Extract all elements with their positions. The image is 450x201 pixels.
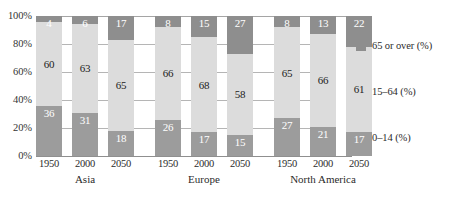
bar-value-15-64: 63	[80, 62, 91, 74]
bar-value-15-64: 65	[282, 67, 293, 79]
x-tick-asia-2050: 2050	[104, 158, 138, 170]
legend-item-15-64[interactable]: 15–64 (%)	[356, 86, 450, 98]
bar-value-65-over: 17	[116, 16, 127, 29]
bar-segment-0-14: 17	[191, 132, 217, 156]
x-tick-europe-2000: 2000	[187, 158, 221, 170]
bar-europe-1950[interactable]: 8 66 26	[155, 16, 181, 156]
x-tick-asia-1950: 1950	[32, 158, 66, 170]
bar-value-15-64: 58	[235, 88, 246, 100]
bar-segment-15-64: 65	[274, 27, 300, 118]
bar-value-0-14: 17	[199, 132, 210, 145]
y-tick-label-100: 100%	[8, 10, 32, 21]
bar-value-0-14: 36	[44, 106, 55, 119]
y-tick-label-80: 80%	[13, 38, 32, 49]
bar-value-15-64: 60	[44, 58, 55, 70]
bar-north-america-1950[interactable]: 8 65 27	[274, 16, 300, 156]
bar-segment-0-14: 26	[155, 120, 181, 156]
bar-value-15-64: 66	[318, 74, 329, 86]
x-tick-north-america-2000: 2000	[306, 158, 340, 170]
bar-segment-15-64: 58	[227, 54, 253, 135]
bar-segment-0-14: 36	[36, 106, 62, 156]
x-axis: 1950 2000 2050 1950 2000 2050 1950 2000 …	[36, 158, 352, 200]
bar-value-15-64: 65	[116, 79, 127, 91]
bar-segment-0-14: 18	[108, 131, 134, 156]
x-tick-europe-2050: 2050	[223, 158, 257, 170]
bar-segment-65-over: 17	[108, 16, 134, 40]
legend-label-65-over: 65 or over (%)	[372, 40, 432, 52]
legend: 65 or over (%) 15–64 (%) 0–14 (%)	[356, 40, 450, 178]
bar-asia-1950[interactable]: 4 60 36	[36, 16, 62, 156]
bar-segment-15-64: 63	[72, 24, 98, 112]
y-tick-label-0: 0%	[18, 150, 32, 161]
bar-value-65-over: 22	[354, 16, 365, 29]
y-tick-label-40: 40%	[13, 94, 32, 105]
y-tick-label-60: 60%	[13, 66, 32, 77]
bar-segment-65-over: 15	[191, 16, 217, 37]
legend-label-15-64: 15–64 (%)	[372, 86, 416, 98]
plot-area: 4 60 36 6 63 31 17	[36, 16, 334, 156]
gridline-0	[36, 156, 352, 157]
bar-segment-65-over: 13	[310, 16, 336, 34]
bar-segment-65-over: 4	[36, 16, 62, 22]
bar-segment-15-64: 68	[191, 37, 217, 132]
bar-north-america-2000[interactable]: 13 66 21	[310, 16, 336, 156]
y-tick-label-20: 20%	[13, 122, 32, 133]
bar-value-0-14: 17	[354, 132, 365, 145]
bar-value-0-14: 31	[80, 113, 91, 126]
x-tick-asia-2000: 2000	[68, 158, 102, 170]
bar-value-65-over: 8	[155, 16, 181, 29]
x-group-label-europe: Europe	[155, 173, 253, 186]
bar-segment-0-14: 27	[274, 118, 300, 156]
bar-segment-65-over: 8	[274, 16, 300, 27]
bar-segment-65-over: 27	[227, 16, 253, 54]
legend-item-0-14[interactable]: 0–14 (%)	[356, 132, 450, 144]
bar-value-65-over: 27	[235, 16, 246, 29]
y-axis: 100% 80% 60% 40% 20% 0%	[0, 0, 34, 165]
bar-value-65-over: 4	[36, 16, 62, 29]
bar-value-0-14: 18	[116, 131, 127, 144]
bar-segment-15-64: 66	[310, 34, 336, 126]
bar-europe-2050[interactable]: 27 58 15	[227, 16, 253, 156]
bar-value-65-over: 15	[199, 16, 210, 29]
bar-segment-0-14: 15	[227, 135, 253, 156]
bar-asia-2000[interactable]: 6 63 31	[72, 16, 98, 156]
bar-value-65-over: 8	[274, 16, 300, 29]
bar-europe-2000[interactable]: 15 68 17	[191, 16, 217, 156]
bar-segment-15-64: 65	[108, 40, 134, 131]
bar-value-65-over: 13	[318, 16, 329, 29]
bar-value-0-14: 21	[318, 127, 329, 140]
legend-swatch-icon	[356, 41, 366, 51]
stacked-bar-chart: 100% 80% 60% 40% 20% 0% 4 60 36	[0, 0, 450, 201]
bar-value-15-64: 61	[354, 83, 365, 95]
bar-value-0-14: 15	[235, 135, 246, 148]
legend-item-65-over[interactable]: 65 or over (%)	[356, 40, 450, 52]
x-group-label-asia: Asia	[36, 173, 134, 186]
bar-segment-65-over: 6	[72, 16, 98, 24]
bar-value-0-14: 26	[163, 120, 174, 133]
bar-value-15-64: 68	[199, 79, 210, 91]
bar-value-15-64: 66	[163, 67, 174, 79]
x-tick-europe-1950: 1950	[151, 158, 185, 170]
bar-segment-65-over: 8	[155, 16, 181, 27]
bar-value-0-14: 27	[282, 118, 293, 131]
x-tick-north-america-1950: 1950	[270, 158, 304, 170]
bar-segment-15-64: 66	[155, 27, 181, 119]
bar-value-65-over: 6	[72, 16, 98, 29]
bar-segment-0-14: 21	[310, 127, 336, 156]
legend-label-0-14: 0–14 (%)	[372, 132, 411, 144]
bar-asia-2050[interactable]: 17 65 18	[108, 16, 134, 156]
bar-segment-15-64: 60	[36, 22, 62, 106]
bar-segment-0-14: 31	[72, 113, 98, 156]
